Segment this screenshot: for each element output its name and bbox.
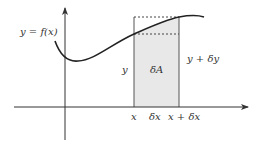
curve-label: y = f(x) xyxy=(19,26,58,37)
curve-f-x xyxy=(55,16,204,62)
left-height-label: y xyxy=(121,64,128,75)
x-left-label: x xyxy=(131,111,137,122)
area-label: δA xyxy=(150,64,163,75)
area-strip-diagram: y = f(x) y δA y + δy x δx x + δx xyxy=(0,0,259,148)
width-label: δx xyxy=(149,111,161,122)
x-right-label: x + δx xyxy=(168,111,200,122)
right-height-label: y + δy xyxy=(186,53,219,64)
